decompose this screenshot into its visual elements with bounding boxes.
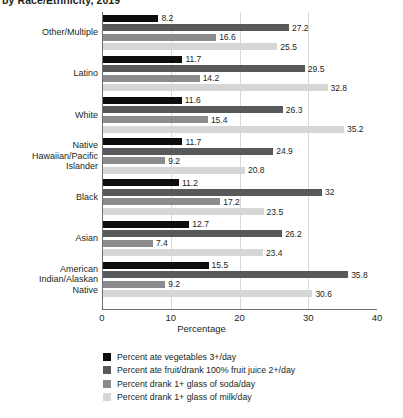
chart-container: by Race/Ethnicity, 2019 8.227.216.625.51… xyxy=(0,0,403,418)
category-label-line: Black xyxy=(2,192,98,203)
bar-value-label: 11.7 xyxy=(185,54,201,64)
bar-value-label: 27.2 xyxy=(292,23,309,33)
category-label-line: Indian/Alaskan xyxy=(2,274,98,285)
bar-value-label: 23.5 xyxy=(267,207,284,217)
bar-value-label: 24.9 xyxy=(276,146,293,156)
bar-group: 11.23217.223.5 xyxy=(102,179,377,217)
bar xyxy=(102,179,179,186)
bar-group: 11.729.514.232.8 xyxy=(102,56,377,94)
category-label: Other/Multiple xyxy=(2,27,98,38)
bar xyxy=(102,208,264,215)
category-label: White xyxy=(2,110,98,121)
category-label-line: Latino xyxy=(2,68,98,79)
category-label-line: Asian xyxy=(2,233,98,244)
bar-value-label: 32.8 xyxy=(331,83,348,93)
chart-title-clipped: by Race/Ethnicity, 2019 xyxy=(2,0,202,6)
bar-value-label: 25.5 xyxy=(280,42,297,52)
bar-group: 15.535.89.230.6 xyxy=(102,262,377,300)
bar-value-label: 9.2 xyxy=(168,156,180,166)
x-tick-30: 30 xyxy=(303,312,314,323)
bar-value-label: 8.2 xyxy=(161,13,173,23)
bar-value-label: 9.2 xyxy=(168,279,180,289)
bar-group: 11.626.315.435.2 xyxy=(102,97,377,135)
bar xyxy=(102,116,208,123)
bar xyxy=(102,84,328,91)
legend-item: Percent drank 1+ glass of soda/day xyxy=(103,377,295,391)
bar-value-label: 20.8 xyxy=(248,165,265,175)
series2-swatch xyxy=(103,366,111,374)
category-label-line: Hawaiian/Pacific xyxy=(2,151,98,162)
bar-group: 11.724.99.220.8 xyxy=(102,138,377,176)
category-label-line: Islander xyxy=(2,161,98,172)
bar xyxy=(102,290,312,297)
category-label: Latino xyxy=(2,68,98,79)
bar xyxy=(102,281,165,288)
category-label-line: Other/Multiple xyxy=(2,27,98,38)
bar-value-label: 29.5 xyxy=(308,64,325,74)
legend-label: Percent ate fruit/drank 100% fruit juice… xyxy=(117,365,295,375)
bar-value-label: 32 xyxy=(325,187,334,197)
legend-item: Percent ate vegetables 3+/day xyxy=(103,350,295,364)
x-tick-10: 10 xyxy=(165,312,176,323)
bar xyxy=(102,230,282,237)
x-axis-line xyxy=(102,309,377,310)
bar xyxy=(102,240,153,247)
bar xyxy=(102,157,165,164)
category-label-line: Native xyxy=(2,140,98,151)
chart-legend: Percent ate vegetables 3+/dayPercent ate… xyxy=(103,350,295,404)
bar-value-label: 35.2 xyxy=(347,124,364,134)
bar-value-label: 11.6 xyxy=(185,95,201,105)
bar xyxy=(102,167,245,174)
bar xyxy=(102,15,158,22)
bar xyxy=(102,56,182,63)
category-label: AmericanIndian/AlaskanNative xyxy=(2,264,98,296)
bar xyxy=(102,75,200,82)
bar xyxy=(102,34,216,41)
bar-value-label: 23.4 xyxy=(266,248,283,258)
bar-value-label: 16.6 xyxy=(219,32,236,42)
bar xyxy=(102,106,283,113)
x-axis-title: Percentage xyxy=(0,323,403,334)
category-label: Black xyxy=(2,192,98,203)
bar-value-label: 30.6 xyxy=(315,289,332,299)
bar xyxy=(102,65,305,72)
bar xyxy=(102,24,289,31)
bar-value-label: 11.7 xyxy=(185,137,201,147)
category-label-line: White xyxy=(2,110,98,121)
category-label: NativeHawaiian/PacificIslander xyxy=(2,140,98,172)
legend-label: Percent drank 1+ glass of soda/day xyxy=(117,379,255,389)
category-label-line: Native xyxy=(2,285,98,296)
plot-area: 8.227.216.625.511.729.514.232.811.626.31… xyxy=(102,12,377,310)
series4-swatch xyxy=(103,393,111,401)
bar-value-label: 15.5 xyxy=(212,260,229,270)
bar xyxy=(102,249,263,256)
bar xyxy=(102,97,182,104)
category-label-line: American xyxy=(2,264,98,275)
legend-label: Percent drank 1+ glass of milk/day xyxy=(117,392,252,402)
bar xyxy=(102,126,344,133)
bar-value-label: 26.2 xyxy=(285,229,302,239)
bar-value-label: 17.2 xyxy=(223,197,240,207)
legend-item: Percent ate fruit/drank 100% fruit juice… xyxy=(103,364,295,378)
bar-value-label: 26.3 xyxy=(286,105,303,115)
bar-value-label: 12.7 xyxy=(192,219,209,229)
x-tick-0: 0 xyxy=(99,312,104,323)
bar-value-label: 11.2 xyxy=(182,178,198,188)
bar xyxy=(102,138,182,145)
x-tick-20: 20 xyxy=(234,312,245,323)
x-tick-40: 40 xyxy=(372,312,383,323)
bar-value-label: 15.4 xyxy=(211,115,228,125)
legend-label: Percent ate vegetables 3+/day xyxy=(117,352,236,362)
category-label: Asian xyxy=(2,233,98,244)
bar xyxy=(102,271,348,278)
legend-item: Percent drank 1+ glass of milk/day xyxy=(103,391,295,405)
series3-swatch xyxy=(103,380,111,388)
bar xyxy=(102,43,277,50)
bar-group: 8.227.216.625.5 xyxy=(102,15,377,53)
bar xyxy=(102,148,273,155)
bar xyxy=(102,198,220,205)
bar xyxy=(102,221,189,228)
bar-value-label: 7.4 xyxy=(156,238,168,248)
bar-value-label: 35.8 xyxy=(351,270,368,280)
series1-swatch xyxy=(103,353,111,361)
